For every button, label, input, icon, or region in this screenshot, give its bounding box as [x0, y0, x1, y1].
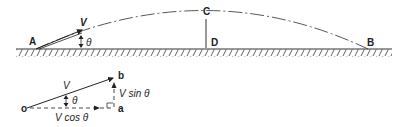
label-c: C — [203, 6, 210, 17]
label-d: D — [211, 37, 218, 48]
label-theta: θ — [86, 37, 92, 48]
label-resultant: V — [63, 80, 71, 91]
label-a: A — [29, 36, 36, 47]
label-o: o — [21, 103, 27, 114]
label-b-small: b — [118, 70, 124, 81]
angle-indicator — [79, 35, 84, 48]
label-velocity: V — [80, 17, 88, 28]
diagram-canvas: A C D B V θ o b a V θ V cos θ V sin θ — [0, 0, 410, 127]
label-a-small: a — [118, 103, 124, 114]
label-v-cos: V cos θ — [55, 112, 89, 123]
label-v-sin: V sin θ — [119, 88, 150, 99]
label-b: B — [367, 37, 374, 48]
velocity-vector — [36, 30, 82, 49]
label-theta-small: θ — [72, 95, 78, 106]
ground — [16, 49, 392, 57]
